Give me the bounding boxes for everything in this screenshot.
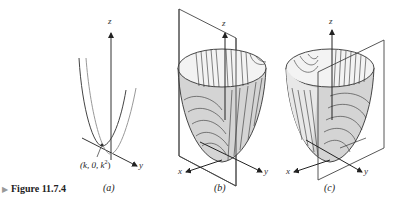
caption-label: Figure 11.7.4 [11,183,66,194]
point-label: (k, 0, k2) [80,159,111,170]
axis-label-z-b: z [222,18,226,28]
axis-label-y-b: y [264,166,268,176]
caption-marker-icon: ▶ [2,185,8,194]
axis-label-y-c: y [364,166,368,176]
figure-diagram [0,0,393,202]
point-k-0-k2 [101,144,104,147]
x-axis-b [186,160,222,172]
axis-label-z-c: z [329,16,333,26]
trace-parabola-1 [79,58,126,146]
axis-label-z-a: z [108,16,112,26]
axis-label-x-c: x [286,166,290,176]
panel-label-c: (c) [324,182,335,193]
panel-a-graphic [79,33,137,166]
x-axis-c [294,160,330,172]
panel-c-graphic [286,30,384,180]
panel-b-graphic [178,9,266,186]
figure-caption: ▶Figure 11.7.4 [2,183,66,194]
axis-label-x-b: x [178,166,182,176]
panel-label-b: (b) [214,182,226,193]
panel-label-a: (a) [103,182,115,193]
axis-label-y-a: y [139,160,143,170]
